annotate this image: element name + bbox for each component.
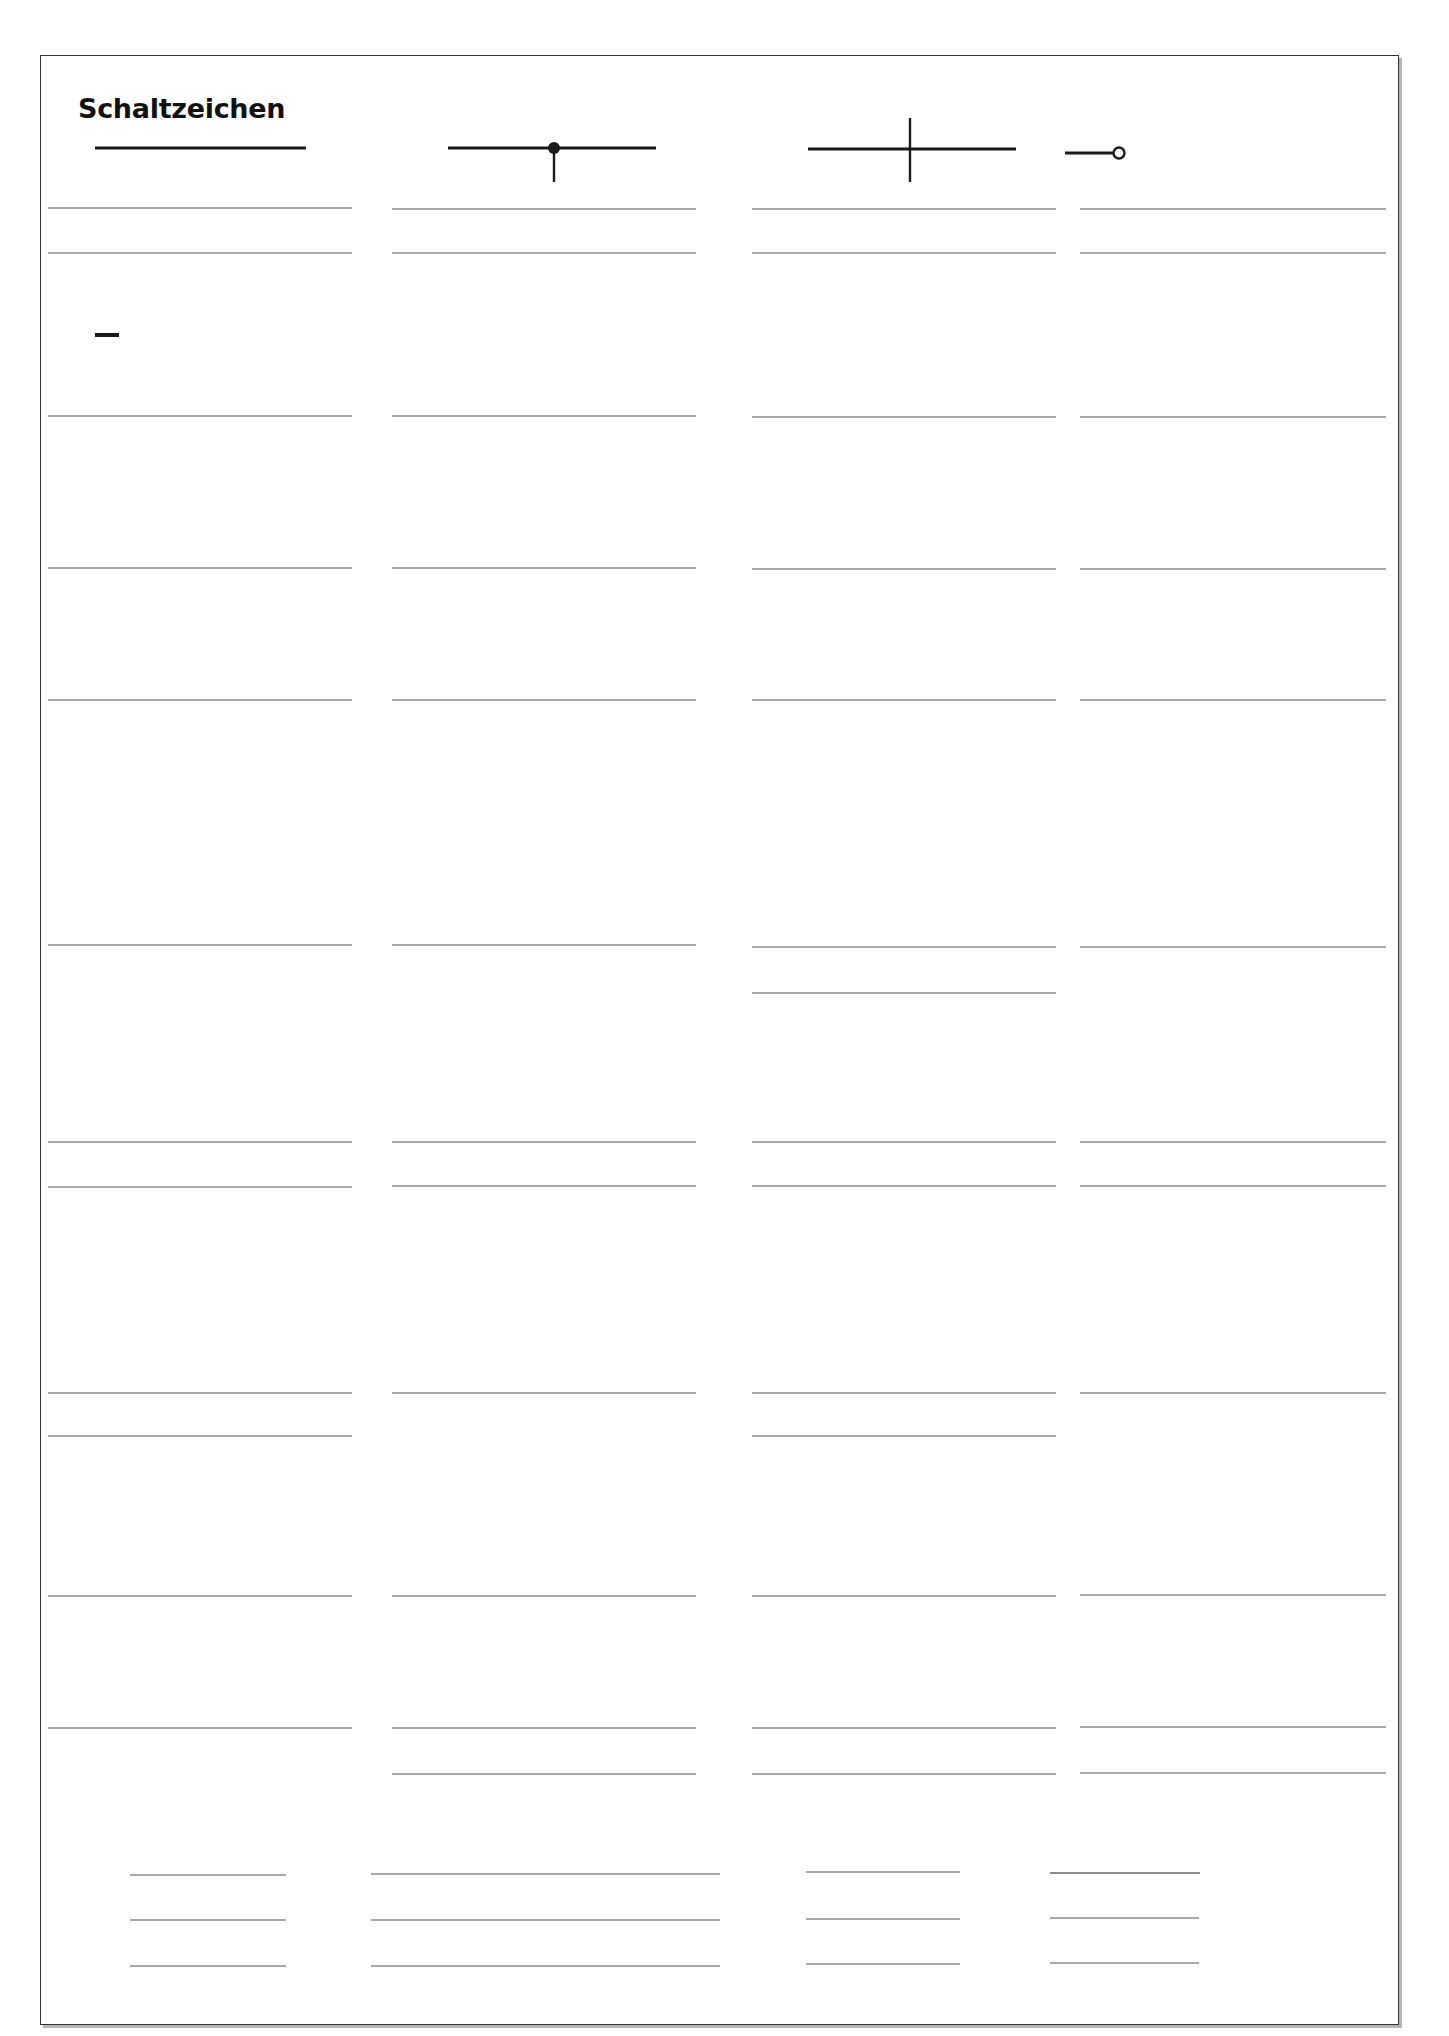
answer-lines[interactable]: [48, 208, 1386, 1966]
terminal-icon: [1065, 148, 1125, 159]
junction-dot-icon: [448, 142, 656, 182]
crossing-wires-icon: [808, 118, 1016, 182]
